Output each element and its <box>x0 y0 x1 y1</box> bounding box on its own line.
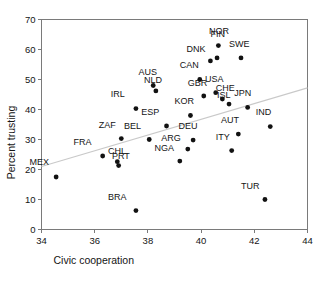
x-tick-label: 42 <box>249 235 260 246</box>
data-point-label-ind: IND <box>256 107 272 117</box>
data-point-marker <box>191 138 196 143</box>
data-point-marker <box>239 56 244 61</box>
y-tick-label: 30 <box>25 134 36 145</box>
data-point-label-zaf: ZAF <box>99 120 117 130</box>
data-point-label-irl: IRL <box>111 89 125 99</box>
data-point-marker <box>236 132 241 137</box>
data-point-label-usa: USA <box>205 74 224 84</box>
data-point-marker <box>208 59 213 64</box>
x-axis-title: Civic cooperation <box>54 254 135 266</box>
data-point-marker <box>54 175 59 180</box>
data-point-label-nga: NGA <box>155 143 175 153</box>
data-point-label-can: CAN <box>180 60 199 70</box>
x-tick-label: 36 <box>89 235 100 246</box>
data-point-label-mex: MEX <box>30 157 50 167</box>
x-tick-label: 40 <box>196 235 207 246</box>
plot-frame <box>42 20 308 230</box>
data-point-marker <box>134 208 139 213</box>
x-tick-label: 44 <box>302 235 313 246</box>
x-tick-label: 38 <box>143 235 154 246</box>
data-point-label-nor: NOR <box>209 26 230 36</box>
data-point-marker <box>153 89 158 94</box>
data-point-marker <box>268 124 273 129</box>
x-tick-label: 34 <box>36 235 47 246</box>
data-point-marker <box>201 94 206 99</box>
y-axis-title: Percent trusting <box>5 106 17 180</box>
data-point-marker <box>116 163 121 168</box>
y-tick-label: 60 <box>25 44 36 55</box>
data-point-marker <box>216 43 221 48</box>
y-tick-label: 40 <box>25 104 36 115</box>
data-point-label-ity: ITY <box>216 132 230 142</box>
data-point-marker <box>164 124 169 129</box>
data-point-label-nld: NLD <box>144 75 163 85</box>
data-point-label-deu: DEU <box>178 121 197 131</box>
data-point-label-jpn: JPN <box>234 88 251 98</box>
data-point-marker <box>245 105 250 110</box>
data-point-label-bra: BRA <box>108 192 127 202</box>
civic-cooperation-vs-trust-chart: 010203040506070343638404244Civic coopera… <box>0 0 334 282</box>
data-point-label-tur: TUR <box>241 181 260 191</box>
data-point-marker <box>147 137 152 142</box>
y-tick-label: 70 <box>25 14 36 25</box>
data-point-marker <box>227 102 232 107</box>
data-point-marker <box>263 197 268 202</box>
data-point-marker <box>185 147 190 152</box>
data-point-marker <box>177 159 182 164</box>
data-point-label-aut: AUT <box>221 115 240 125</box>
y-tick-label: 50 <box>25 74 36 85</box>
data-point-label-fra: FRA <box>73 137 91 147</box>
y-tick-label: 0 <box>30 224 35 235</box>
data-point-label-kor: KOR <box>175 96 195 106</box>
data-point-marker <box>134 106 139 111</box>
scatter-plot-figure: 010203040506070343638404244Civic coopera… <box>0 0 334 282</box>
data-point-label-prt: PRT <box>112 151 130 161</box>
data-point-label-isl: ISL <box>217 90 231 100</box>
data-point-label-bel: BEL <box>124 121 141 131</box>
data-point-label-esp: ESP <box>141 107 159 117</box>
data-point-label-swe: SWE <box>229 39 250 49</box>
data-point-marker <box>100 154 105 159</box>
y-tick-label: 10 <box>25 194 36 205</box>
data-point-marker <box>229 148 234 153</box>
data-point-label-dnk: DNK <box>186 44 205 54</box>
data-point-marker <box>119 136 124 141</box>
data-point-marker <box>215 56 220 61</box>
data-point-marker <box>188 113 193 118</box>
data-point-label-arg: ARG <box>161 133 181 143</box>
